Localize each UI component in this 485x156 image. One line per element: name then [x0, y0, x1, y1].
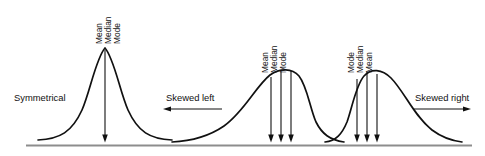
- skewed-right-direction-arrow: [414, 106, 471, 111]
- caption-skewed-right: Skewed right: [415, 93, 469, 102]
- caption-symmetrical: Symmetrical: [14, 93, 66, 102]
- skewed-right-label-mean: Mean: [365, 52, 373, 73]
- symmetrical-stat-arrow: [102, 50, 108, 143]
- caption-skewed-left: Skewed left: [166, 93, 214, 102]
- skewed-right-curve: [325, 71, 462, 142]
- skewed-left-label-mode: Mode: [279, 52, 287, 73]
- skewed-right-stat-arrows: [354, 72, 380, 143]
- symmetrical-label-mode: Mode: [113, 23, 121, 44]
- skewed-left-curve: [172, 70, 344, 142]
- skewed-left-direction-arrow: [163, 106, 222, 111]
- figure-canvas: [0, 0, 485, 156]
- skewed-left-stat-arrows: [268, 71, 294, 143]
- distribution-shapes-figure: Mean Median Mode Mean Median Mode Mode M…: [0, 0, 485, 156]
